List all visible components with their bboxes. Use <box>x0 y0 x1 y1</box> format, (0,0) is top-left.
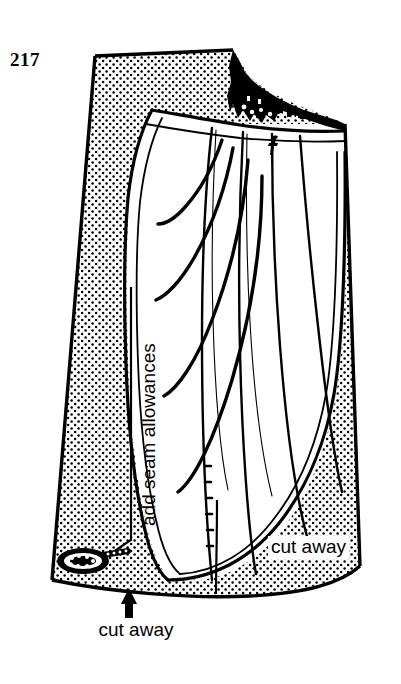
pattern-draft-illustration <box>0 0 401 684</box>
panel-divider <box>216 500 217 594</box>
figure-number: 217 <box>10 50 40 69</box>
label-cut-away-right: cut away <box>268 536 349 559</box>
label-cut-away-bottom: cut away <box>61 620 211 640</box>
figure-page: 217 add seam allowances cut away cut awa… <box>0 0 401 684</box>
label-add-seam-allowances: add seam allowances <box>139 343 158 526</box>
